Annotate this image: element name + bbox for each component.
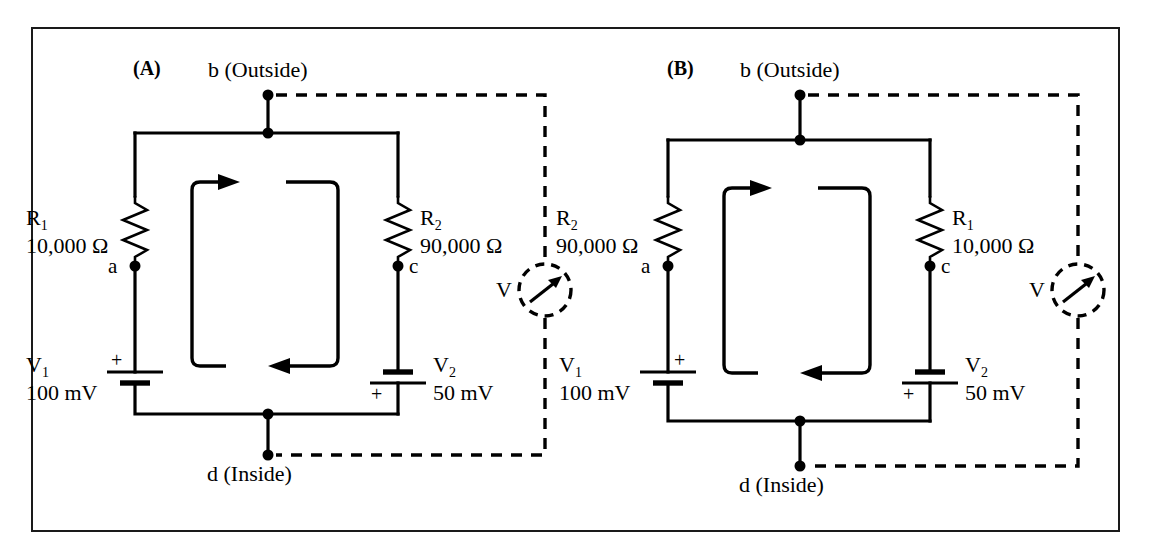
panel-a-v1-name: V (26, 352, 42, 377)
panel-b-r2-label: R2 90,000 Ω (556, 206, 638, 259)
panel-b-r1-label: R1 10,000 Ω (952, 206, 1034, 259)
panel-b-v2-polarity: + (903, 383, 914, 405)
panel-a-r2-value: 90,000 Ω (420, 233, 502, 258)
panel-a-loop-arrow-top-right (218, 174, 240, 190)
panel-b-node-d-dot (795, 461, 806, 472)
panel-a-v2-label: V2 50 mV (433, 353, 494, 406)
panel-a-r2-label: R2 90,000 Ω (420, 206, 502, 259)
panel-a-resistor-r1 (123, 196, 147, 265)
panel-b-node-b-dot (795, 90, 806, 101)
panel-a-r1-label: R1 10,000 Ω (26, 206, 108, 259)
panel-b-v2-value: 50 mV (965, 380, 1026, 405)
panel-b-v1-value: 100 mV (559, 380, 631, 405)
panel-b-meter-lead-bottom (808, 318, 1078, 466)
panel-a-node-c-label: c (409, 255, 418, 279)
panel-a-v1-value: 100 mV (26, 380, 98, 405)
panel-a-v2-name: V (433, 352, 449, 377)
panel-a-voltmeter-label: V (496, 278, 512, 303)
panel-a-v2-value: 50 mV (433, 380, 494, 405)
panel-a-circuit (107, 90, 571, 461)
panel-b-node-a-label: a (641, 255, 650, 279)
panel-b-node-b-junction-dot (795, 135, 806, 146)
panel-b-r1-subscript: 1 (967, 218, 974, 233)
panel-a-v2-polarity: + (371, 383, 382, 405)
panel-b-tag: (B) (667, 57, 694, 79)
panel-b-r2-name: R (556, 205, 571, 230)
panel-a-v2-subscript: 2 (449, 365, 456, 380)
panel-b-r1-name: R (952, 205, 967, 230)
panel-a-tag: (A) (133, 57, 161, 79)
panel-b-r2-subscript: 2 (571, 218, 578, 233)
panel-b-v2-label: V2 50 mV (965, 353, 1026, 406)
panel-a-v1-polarity: + (111, 349, 122, 371)
circuit-drawing (0, 0, 1153, 555)
panel-a-r2-subscript: 2 (435, 218, 442, 233)
panel-b-node-d-label: d (Inside) (739, 473, 824, 498)
panel-a-node-d-junction-dot (263, 409, 274, 420)
panel-b-v2-subscript: 2 (981, 365, 988, 380)
panel-b-r1-value: 10,000 Ω (952, 233, 1034, 258)
panel-b-voltmeter-label: V (1029, 278, 1045, 303)
panel-a-r1-name: R (26, 205, 41, 230)
panel-b-loop-left (724, 188, 758, 373)
circuit-figure: (A) b (Outside) d (Inside) R1 10,000 Ω a… (0, 0, 1153, 555)
panel-b-resistor-r2 (656, 196, 680, 265)
panel-b-bottom-rail (668, 383, 930, 421)
panel-a-loop-right (286, 182, 338, 366)
panel-b-v1-subscript: 1 (575, 365, 582, 380)
panel-b-resistor-r1 (918, 196, 942, 265)
panel-a-r2-name: R (420, 205, 435, 230)
panel-a-r1-value: 10,000 Ω (26, 233, 108, 258)
panel-a-r1-subscript: 1 (41, 218, 48, 233)
panel-b-v1-label: V1 100 mV (559, 353, 631, 406)
panel-b-v1-name: V (559, 352, 575, 377)
panel-b-loop-right (818, 188, 870, 373)
panel-a-meter-lead-top (276, 95, 545, 262)
panel-a-node-b-label: b (Outside) (208, 58, 308, 83)
panel-a-resistor-r2 (386, 196, 410, 265)
panel-b-loop-arrow-top-right (750, 180, 772, 196)
panel-b-node-b-label: b (Outside) (740, 58, 840, 83)
panel-b-node-d-junction-dot (795, 416, 806, 427)
panel-a-meter-lead-bottom (276, 318, 545, 455)
panel-a-node-a-dot (130, 261, 141, 272)
panel-a-v1-label: V1 100 mV (26, 353, 98, 406)
panel-a-node-d-label: d (Inside) (207, 462, 292, 487)
panel-a-node-a-label: a (108, 255, 117, 279)
panel-b-v2-name: V (965, 352, 981, 377)
panel-b-meter-lead-top (808, 95, 1078, 262)
panel-b-loop-arrow-bottom-left (800, 365, 822, 381)
panel-a-node-b-dot (263, 90, 274, 101)
panel-b-v1-polarity: + (674, 349, 685, 371)
panel-a-loop-left (192, 182, 226, 366)
panel-a-node-d-dot (263, 450, 274, 461)
panel-b-r2-value: 90,000 Ω (556, 233, 638, 258)
panel-b-node-c-label: c (941, 255, 950, 279)
panel-a-node-b-junction-dot (263, 128, 274, 139)
panel-a-loop-arrow-bottom-left (268, 358, 290, 374)
panel-a-v1-subscript: 1 (42, 365, 49, 380)
